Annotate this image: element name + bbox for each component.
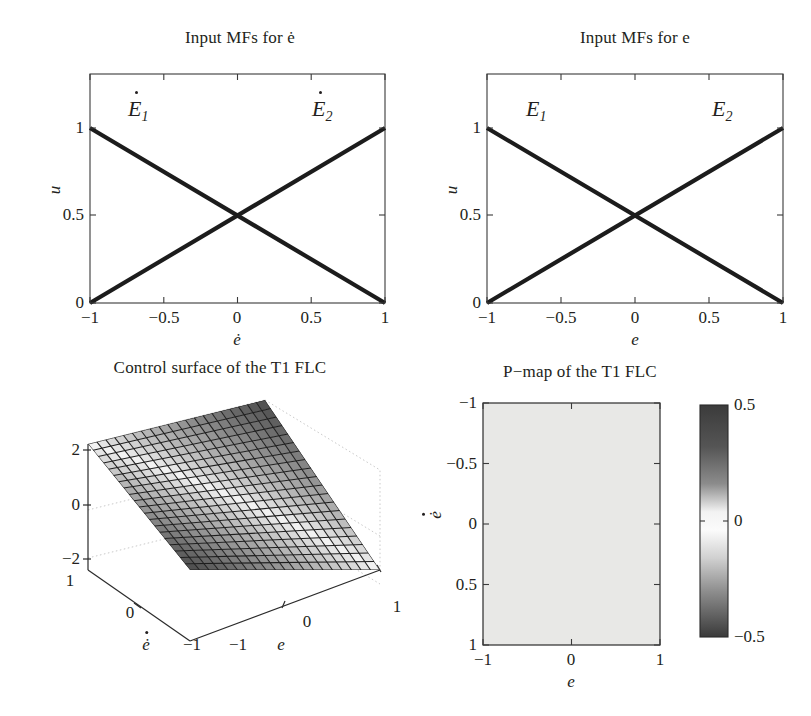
plot-area-mfs-edot bbox=[0, 0, 420, 350]
colorbar-tick-label: 0.5 bbox=[734, 395, 755, 415]
x-tick-label: 1 bbox=[656, 650, 665, 670]
surface-mesh bbox=[88, 400, 380, 570]
edot-tick-label: 1 bbox=[66, 571, 75, 591]
colorbar-tick-label: −0.5 bbox=[734, 627, 765, 647]
plot-area-control-surface bbox=[0, 350, 420, 716]
y-tick-label: 0 bbox=[76, 293, 85, 313]
e-axis-line bbox=[190, 570, 380, 641]
figure-canvas: Input MFs for ė −1 −0 bbox=[0, 0, 811, 716]
z-tick-label: 2 bbox=[72, 440, 81, 460]
edot-axis-label: ė bbox=[142, 635, 150, 655]
x-tick-label: 0 bbox=[631, 308, 640, 328]
x-tick-label: 0 bbox=[567, 650, 576, 670]
x-tick-label: 0 bbox=[233, 308, 242, 328]
mf-annotation-2-sub: 2 bbox=[325, 109, 332, 124]
y-tick-label: −0.5 bbox=[446, 454, 477, 474]
edot-tick-label: 0 bbox=[126, 603, 135, 623]
mf-annotation-2-letter: E bbox=[312, 96, 325, 121]
mf-annotation-2-letter: E bbox=[712, 96, 725, 121]
plot-area-mfs-e bbox=[400, 0, 811, 350]
panel-control-surface: Control surface of the T1 FLC bbox=[0, 350, 420, 716]
x-tick-label: 1 bbox=[381, 308, 390, 328]
heatmap-field bbox=[483, 403, 660, 645]
y-tick-label: 1 bbox=[469, 635, 478, 655]
y-tick-label: 1 bbox=[76, 118, 85, 138]
y-axis-label: u bbox=[442, 186, 462, 195]
mf-annotation-1-letter: E bbox=[128, 96, 141, 121]
overdot-icon bbox=[422, 513, 425, 516]
y-tick-label: 1 bbox=[473, 118, 482, 138]
e-axis-label: e bbox=[277, 635, 285, 655]
y-tick-label: 0.5 bbox=[460, 205, 481, 225]
mf-annotation-2: E2 bbox=[712, 96, 732, 125]
overdot-icon bbox=[145, 631, 148, 634]
y-tick-label: 0.5 bbox=[456, 575, 477, 595]
colorbar-tick-label: 0 bbox=[734, 511, 743, 531]
x-axis-label: ė bbox=[233, 330, 241, 350]
panel-input-mfs-e: Input MFs for e −1 −0.5 0 0.5 1 bbox=[400, 0, 811, 350]
mf-annotation-1-letter: E bbox=[526, 96, 539, 121]
x-tick-label: 1 bbox=[779, 308, 788, 328]
edot-axis-letter: ė bbox=[142, 635, 150, 654]
y-tick-label: −1 bbox=[459, 393, 477, 413]
y-tick-label: 0 bbox=[473, 293, 482, 313]
e-tick-label: −1 bbox=[229, 635, 247, 655]
e-tick-label: 0 bbox=[303, 612, 312, 632]
x-tick-label: −0.5 bbox=[546, 308, 577, 328]
y-tick-label: 0.5 bbox=[63, 205, 84, 225]
mf-annotation-2: E 2 bbox=[312, 96, 332, 125]
mf-annotation-2-sub: 2 bbox=[725, 109, 732, 124]
mf-annotation-1: E 1 bbox=[128, 96, 148, 125]
x-axis-label: e bbox=[631, 330, 639, 350]
y-axis-letter: ė bbox=[426, 511, 445, 519]
y-axis-label: ė bbox=[426, 511, 446, 519]
x-tick-label: 0.5 bbox=[698, 308, 719, 328]
edot-axis-line bbox=[88, 570, 190, 641]
mf-annotation-1: E1 bbox=[526, 96, 546, 125]
panel-p-map: P−map of the T1 FLC bbox=[400, 350, 811, 716]
mf-annotation-1-sub: 1 bbox=[141, 109, 148, 124]
z-tick-label: −2 bbox=[62, 549, 80, 569]
panel-input-mfs-edot: Input MFs for ė −1 −0 bbox=[0, 0, 420, 350]
y-axis-label: u bbox=[45, 186, 65, 195]
mf-annotation-1-sub: 1 bbox=[539, 109, 546, 124]
e-tick bbox=[282, 601, 285, 608]
z-tick-label: 0 bbox=[72, 495, 81, 515]
edot-tick-label: −1 bbox=[183, 635, 201, 655]
y-tick-label: 0 bbox=[469, 514, 478, 534]
x-axis-label: e bbox=[567, 672, 575, 692]
x-tick-label: −0.5 bbox=[149, 308, 180, 328]
x-tick-label: 0.5 bbox=[300, 308, 321, 328]
